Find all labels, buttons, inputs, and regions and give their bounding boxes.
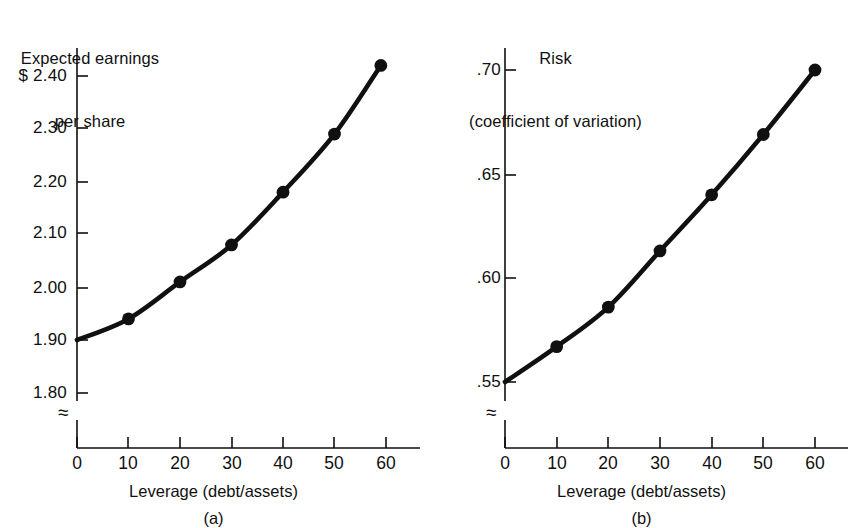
panel-a-plot <box>0 0 427 528</box>
data-point-marker <box>328 128 341 141</box>
panel-b-xtick-label-3: 30 <box>640 453 680 474</box>
panel-b-plot <box>428 0 855 528</box>
chart-panel-b: Risk (coefficient of variation) .70 .65 … <box>428 0 855 528</box>
data-point-marker <box>809 64 822 77</box>
data-point-marker <box>225 239 238 252</box>
panel-a-xtick-label-0: 0 <box>57 453 97 474</box>
panel-a-data-markers <box>122 59 387 325</box>
panel-b-xtick-label-2: 20 <box>588 453 628 474</box>
panel-b-letter: (b) <box>428 509 855 528</box>
panel-a-xtick-label-4: 40 <box>263 453 303 474</box>
panel-a-x-axis-caption: Leverage (debt/assets) <box>0 482 427 501</box>
data-point-marker <box>705 188 718 201</box>
data-point-marker <box>654 245 667 258</box>
chart-panel-a: Expected earnings per share $ 2.40 2.30 … <box>0 0 427 528</box>
panel-b-xtick-label-5: 50 <box>743 453 783 474</box>
panel-a-xtick-label-2: 20 <box>160 453 200 474</box>
data-point-marker <box>277 186 290 199</box>
panel-b-xtick-label-1: 10 <box>537 453 577 474</box>
panel-a-xtick-label-1: 10 <box>108 453 148 474</box>
data-point-marker <box>122 312 135 325</box>
panel-a-data-curve <box>77 65 381 340</box>
panel-b-xtick-label-0: 0 <box>485 453 525 474</box>
data-point-marker <box>550 340 563 353</box>
panel-a-letter: (a) <box>0 509 427 528</box>
panel-a-xtick-label-5: 50 <box>314 453 354 474</box>
panel-b-x-axis-caption: Leverage (debt/assets) <box>428 482 855 501</box>
panel-b-xtick-label-6: 60 <box>795 453 835 474</box>
panel-b-xtick-label-4: 40 <box>692 453 732 474</box>
panel-b-data-curve <box>505 70 815 382</box>
panel-b-data-markers <box>550 64 821 353</box>
panel-a-xtick-label-3: 30 <box>212 453 252 474</box>
data-point-marker <box>757 128 770 141</box>
data-point-marker <box>374 59 387 72</box>
data-point-marker <box>602 301 615 314</box>
panel-a-xtick-label-6: 60 <box>366 453 406 474</box>
data-point-marker <box>174 276 187 289</box>
